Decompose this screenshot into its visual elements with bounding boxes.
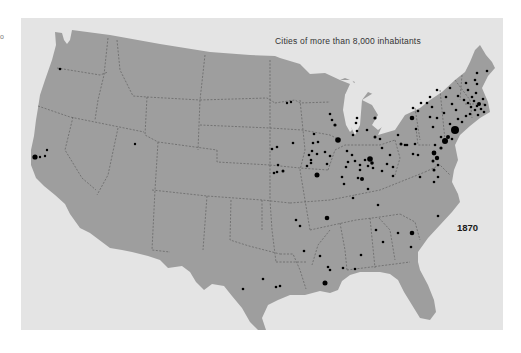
city-dot bbox=[431, 106, 434, 109]
city-dot bbox=[432, 126, 435, 129]
city-dot bbox=[343, 183, 346, 186]
city-dot bbox=[445, 96, 448, 99]
city-dot bbox=[410, 246, 413, 249]
city-dot bbox=[457, 118, 460, 121]
city-dot bbox=[400, 143, 403, 146]
city-dot bbox=[436, 89, 439, 92]
city-dot bbox=[440, 136, 443, 139]
city-dot bbox=[311, 150, 314, 153]
city-dot bbox=[316, 153, 319, 156]
city-dot bbox=[273, 172, 276, 175]
city-dot bbox=[451, 126, 459, 134]
city-dot bbox=[367, 165, 370, 168]
city-dot bbox=[473, 100, 476, 103]
city-dot bbox=[292, 142, 295, 145]
city-dot bbox=[417, 110, 420, 113]
city-dot bbox=[392, 175, 395, 178]
city-dot bbox=[463, 99, 466, 102]
city-dot bbox=[303, 250, 306, 253]
city-dot bbox=[465, 115, 468, 118]
city-dot bbox=[449, 123, 452, 126]
city-dot bbox=[373, 116, 376, 119]
city-dot bbox=[414, 143, 417, 146]
city-dot bbox=[351, 154, 354, 157]
city-dot bbox=[310, 159, 313, 162]
city-dot bbox=[451, 138, 454, 141]
city-dot bbox=[359, 169, 362, 172]
city-dot bbox=[451, 103, 454, 106]
city-dot bbox=[475, 92, 478, 95]
city-dot bbox=[469, 113, 472, 116]
city-dot bbox=[345, 166, 348, 169]
city-dot bbox=[379, 138, 382, 141]
city-dot bbox=[356, 130, 359, 133]
city-dot bbox=[352, 134, 355, 137]
city-dot bbox=[449, 87, 452, 90]
city-dot bbox=[335, 137, 341, 143]
city-dot bbox=[341, 176, 344, 179]
city-dot bbox=[474, 109, 477, 112]
city-dot bbox=[477, 102, 481, 106]
city-dot bbox=[276, 171, 279, 174]
city-dot bbox=[470, 106, 473, 109]
city-dot bbox=[476, 72, 479, 75]
city-dot bbox=[312, 142, 315, 145]
city-dot bbox=[455, 109, 458, 112]
city-dot bbox=[242, 288, 245, 291]
city-dot bbox=[426, 102, 429, 105]
city-dot bbox=[412, 153, 415, 156]
city-dot bbox=[329, 113, 332, 116]
city-dot bbox=[306, 165, 309, 168]
city-dot bbox=[262, 278, 265, 281]
city-dot bbox=[367, 156, 373, 162]
city-dot bbox=[443, 112, 446, 115]
city-dot bbox=[319, 255, 322, 258]
city-dot bbox=[310, 162, 313, 165]
city-dot bbox=[333, 123, 336, 126]
city-dot bbox=[367, 188, 370, 191]
city-dot bbox=[482, 98, 485, 101]
city-dot bbox=[313, 133, 316, 136]
city-dot bbox=[483, 111, 486, 114]
city-dot bbox=[39, 156, 41, 158]
city-dot bbox=[467, 102, 470, 105]
city-dot bbox=[381, 170, 384, 173]
city-dot bbox=[271, 148, 274, 151]
city-dot bbox=[436, 117, 439, 120]
city-dot bbox=[484, 104, 487, 107]
city-dot bbox=[299, 225, 302, 228]
city-dot bbox=[461, 121, 464, 124]
city-dot bbox=[389, 154, 392, 157]
city-dot bbox=[434, 144, 437, 147]
city-dot bbox=[286, 102, 288, 104]
map-title: Cities of more than 8,000 inhabitants bbox=[275, 36, 421, 46]
edge-mark: o bbox=[0, 33, 4, 40]
city-dot bbox=[277, 164, 280, 167]
city-dot bbox=[356, 117, 359, 120]
city-dot bbox=[59, 68, 62, 71]
city-dot bbox=[406, 144, 409, 147]
city-dot bbox=[282, 170, 285, 173]
city-dot bbox=[410, 116, 415, 121]
city-dot bbox=[355, 122, 358, 125]
city-dot bbox=[279, 285, 282, 288]
city-dot bbox=[329, 269, 332, 272]
city-dot bbox=[276, 146, 279, 149]
city-dot bbox=[359, 164, 362, 167]
city-dot bbox=[397, 232, 400, 235]
city-dot bbox=[375, 229, 378, 232]
city-dot bbox=[457, 95, 460, 98]
city-dot bbox=[397, 134, 400, 137]
city-dot bbox=[465, 82, 468, 85]
city-dot bbox=[46, 149, 48, 151]
city-dot bbox=[467, 89, 470, 92]
city-dot bbox=[326, 163, 329, 166]
city-dot bbox=[437, 176, 440, 179]
city-dot bbox=[439, 146, 442, 149]
city-dot bbox=[415, 128, 418, 131]
city-dot bbox=[44, 155, 46, 157]
city-dot bbox=[323, 281, 328, 286]
city-dot bbox=[366, 129, 369, 132]
city-dot bbox=[419, 176, 422, 179]
city-dot bbox=[429, 116, 432, 119]
